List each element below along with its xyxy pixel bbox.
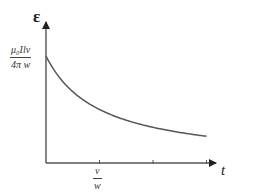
x-tick-denominator: w bbox=[93, 179, 102, 191]
y-tick-numerator: μ₀Ilv bbox=[10, 45, 31, 58]
x-tick-label: v w bbox=[93, 166, 102, 191]
chart-canvas bbox=[0, 0, 273, 196]
y-axis-label: ε bbox=[33, 8, 40, 25]
x-axis-label: t bbox=[221, 163, 225, 178]
x-tick-numerator: v bbox=[93, 166, 102, 179]
y-tick-denominator: 4π w bbox=[10, 58, 31, 70]
y-tick-label: μ₀Ilv 4π w bbox=[10, 45, 31, 70]
emf-curve bbox=[46, 56, 207, 136]
